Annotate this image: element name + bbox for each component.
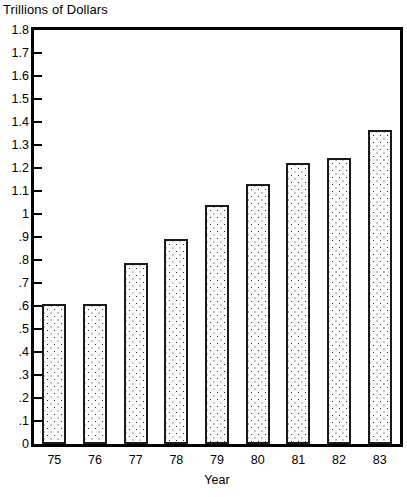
y-axis-tick-label: 1.8 [1, 24, 29, 36]
y-axis-tick-label: .3 [1, 369, 29, 381]
y-axis-tick-label: .7 [1, 277, 29, 289]
bar [286, 163, 310, 444]
bar [83, 304, 107, 444]
x-axis-tick-label: 78 [169, 452, 183, 468]
x-axis-tick-label: 76 [88, 452, 102, 468]
x-axis-title: Year [34, 472, 400, 488]
y-axis-tick-label: 1.5 [1, 93, 29, 105]
y-axis-tick-label: .4 [1, 346, 29, 358]
x-axis-tick-label: 80 [251, 452, 265, 468]
y-axis-tick-label: 1.6 [1, 70, 29, 82]
y-axis-tick-label: 1.2 [1, 162, 29, 174]
bar [205, 205, 229, 444]
y-axis-tick-label: 1.4 [1, 116, 29, 128]
y-axis-tick-label: 1.7 [1, 47, 29, 59]
y-axis-tick-label: .9 [1, 231, 29, 243]
bar [327, 158, 351, 444]
bar [164, 239, 188, 444]
y-axis-tick-label: .5 [1, 323, 29, 335]
y-axis-tick-label: .2 [1, 392, 29, 404]
bar [368, 130, 392, 444]
y-axis-tick-label: 1.3 [1, 139, 29, 151]
x-axis-tick-label: 83 [373, 452, 387, 468]
y-axis-tick-label: .6 [1, 300, 29, 312]
plot-area [34, 30, 400, 444]
y-axis-tick-label: 1.1 [1, 185, 29, 197]
y-axis-tick-labels: 1.81.71.61.51.41.31.21.11.9.8.7.6.5.4.3.… [0, 30, 29, 444]
y-axis-tick-label: 0 [1, 438, 29, 450]
x-axis-tick-labels: 757677787980818283 [34, 452, 400, 470]
x-axis-tick-label: 75 [47, 452, 61, 468]
bar [246, 184, 270, 444]
y-axis-tick-label: 1 [1, 208, 29, 220]
y-axis-tick-label: .1 [1, 415, 29, 427]
x-axis-tick-label: 82 [332, 452, 346, 468]
bar-chart: Trillions of Dollars 1.81.71.61.51.41.31… [0, 0, 407, 497]
bar [124, 263, 148, 444]
x-axis-tick-label: 81 [291, 452, 305, 468]
x-axis-tick-label: 79 [210, 452, 224, 468]
bar [42, 304, 66, 444]
y-axis-tick-label: .8 [1, 254, 29, 266]
x-axis-tick-label: 77 [129, 452, 143, 468]
y-axis-title: Trillions of Dollars [3, 2, 108, 18]
